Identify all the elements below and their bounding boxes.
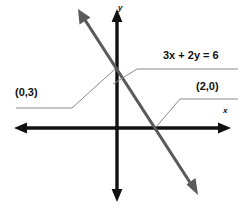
equation-label: 3x + 2y = 6: [163, 50, 219, 61]
x-axis-right-arrowhead: [218, 123, 231, 134]
equation-line-segment: [85, 20, 191, 184]
graph-figure: y x (0,3) (2,0) 3x + 2y = 6: [0, 0, 243, 210]
x-axis: [14, 123, 231, 134]
x-axis-label: x: [223, 107, 227, 115]
x-axis-left-arrowhead: [14, 123, 27, 134]
x-intercept-label: (2,0): [196, 81, 219, 92]
y-axis-label: y: [118, 4, 122, 12]
y-axis-bottom-arrowhead: [112, 189, 123, 202]
leader-line-equation: [113, 69, 238, 84]
coordinate-plane-svg: [0, 0, 243, 210]
y-axis: [112, 9, 123, 202]
equation-line: [78, 9, 198, 195]
equation-line-upper-arrowhead: [78, 9, 91, 25]
y-intercept-label: (0,3): [15, 87, 38, 98]
